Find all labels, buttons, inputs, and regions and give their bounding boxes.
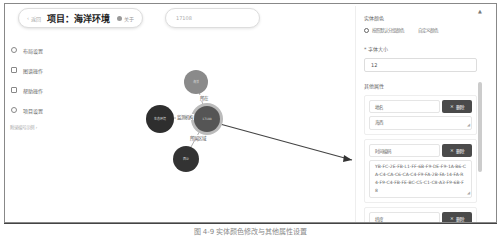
graph-node-top[interactable]: 海洋 <box>184 70 208 94</box>
help-icon <box>11 87 17 93</box>
attribute-value: 海西 <box>375 120 383 125</box>
sidebar: 布局设置 图谱操作 帮助操作 项目设置 附录编号示例 › <box>8 40 63 130</box>
sidebar-label: 图谱操作 <box>23 67 43 74</box>
circle-icon <box>11 47 17 53</box>
sidebar-item-graph-ops[interactable]: 图谱操作 <box>8 60 63 80</box>
project-header: ‹ 返回 项目：海洋环境 关于 <box>18 8 143 28</box>
attribute-value-textarea[interactable]: YB-FC-2E-FB-L1-FF-6B-F9-DE-F9-1A-B6-CA-C… <box>369 160 472 198</box>
sidebar-label: 项目设置 <box>23 107 43 114</box>
attributes-label: 其他属性 <box>364 82 477 89</box>
pencil-icon <box>11 67 17 73</box>
sidebar-item-help[interactable]: 帮助操作 <box>8 80 63 100</box>
delete-label: 删除 <box>456 216 464 222</box>
delete-button[interactable]: × 删除 <box>442 144 472 157</box>
info-icon <box>117 16 122 21</box>
radio-icon <box>364 28 369 33</box>
delete-label: 删除 <box>456 104 464 110</box>
node-label: 海洋 <box>193 80 199 84</box>
font-size-label: * 字体大小 <box>364 45 477 52</box>
radio-default-color[interactable]: 按照默认分组颜色 <box>364 27 404 33</box>
edge-label: 所属区域 <box>189 135 207 141</box>
gear-icon <box>11 107 17 113</box>
back-button[interactable]: ‹ 返回 <box>27 15 41 22</box>
attribute-value-textarea[interactable]: 海西◢ <box>369 116 472 130</box>
figure-caption: 图 4-9 实体颜色修改与其他属性设置 <box>0 226 501 238</box>
resize-handle-icon[interactable]: ◢ <box>467 189 470 197</box>
sidebar-label: 布局设置 <box>23 47 43 54</box>
properties-panel: 实体颜色 按照默认分组颜色 自定义颜色 * 字体大小 12 其他属性 地名× 删… <box>355 6 485 222</box>
search-value: 17108 <box>176 15 192 21</box>
appendix-link[interactable]: 附录编号示例 › <box>8 124 63 130</box>
sidebar-item-project-settings[interactable]: 项目设置 <box>8 100 63 120</box>
attribute-item: 地名× 删除 海西◢ <box>364 95 477 135</box>
attribute-key-input[interactable]: 时间编码 <box>369 144 440 157</box>
about-button[interactable]: 关于 <box>117 15 134 22</box>
about-label: 关于 <box>124 15 134 22</box>
radio-label: 自定义颜色 <box>418 27 438 33</box>
scroll-up-icon[interactable]: ▲ <box>478 8 482 14</box>
font-size-input[interactable]: 12 <box>364 58 477 72</box>
search-input[interactable]: 17108 <box>165 8 260 28</box>
font-size-value: 12 <box>371 62 377 68</box>
project-title: 项目：海洋环境 <box>47 12 110 25</box>
graph-node-center-selected[interactable]: 17108 <box>194 106 220 132</box>
radio-label: 按照默认分组颜色 <box>372 27 404 33</box>
node-label: 生态环境 <box>154 117 166 121</box>
graph-node-left[interactable]: 生态环境 <box>146 105 174 133</box>
delete-label: 删除 <box>456 148 464 154</box>
radio-custom-color[interactable]: 自定义颜色 <box>418 27 438 33</box>
attribute-value: YB-FC-2E-FB-L1-FF-6B-F9-DE-F9-1A-B6-CA-C… <box>375 164 466 193</box>
color-section-label: 实体颜色 <box>364 14 477 21</box>
color-radio-group: 按照默认分组颜色 自定义颜色 <box>364 27 477 33</box>
sidebar-item-layout[interactable]: 布局设置 <box>8 40 63 60</box>
panel-scrollbar[interactable] <box>478 82 482 172</box>
back-label: 返回 <box>31 15 41 22</box>
attribute-item: 时间编码× 删除 YB-FC-2E-FB-L1-FF-6B-F9-DE-F9-1… <box>364 139 477 203</box>
edge-label: 监测机构 <box>176 114 194 120</box>
graph-node-bottom[interactable]: 西沙 <box>173 146 199 172</box>
delete-button[interactable]: × 删除 <box>442 100 472 113</box>
node-label: 西沙 <box>183 157 189 161</box>
delete-button[interactable]: × 删除 <box>442 212 472 222</box>
attribute-key-input[interactable]: 地名 <box>369 100 440 113</box>
attribute-key-input[interactable]: 纬度 <box>369 212 440 222</box>
edge-label: 所在 <box>199 95 209 101</box>
sidebar-label: 帮助操作 <box>23 87 43 94</box>
attribute-item: 纬度× 删除 17.228812866667◢ <box>364 207 477 222</box>
node-label: 17108 <box>202 117 212 121</box>
resize-handle-icon[interactable]: ◢ <box>467 121 470 129</box>
divider <box>4 223 497 224</box>
